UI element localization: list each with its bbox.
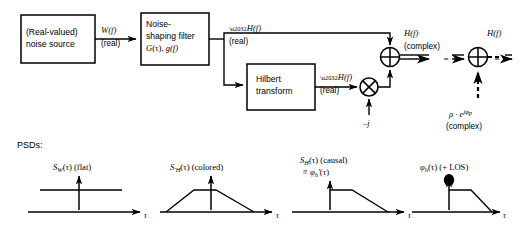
psd-3-label: SH(τ) (causal) [300,155,348,166]
node-summing-junction-2 [469,48,488,67]
plot-psd-sh-causal: SH(τ) (causal) ≡ φh′(τ) τ [292,155,411,220]
los-impulse-dot [444,174,454,186]
filter-line1: Noise- [146,19,171,29]
label-equals-1: = [443,54,449,64]
filter-line3: G(τ), g(f) [146,43,178,53]
block-hilbert-transform: Hilbert transform [247,64,315,110]
psd-2-label: S′H(τ) (colored) [170,162,223,173]
wire-multiplier-to-sum1 [378,70,390,87]
psd-4-label: φh(τ) (+ LOS) [420,162,468,173]
label-h-out: H(f) [486,28,501,38]
label-rho-term: ρ · ejφp [448,108,472,119]
psd-3-axis-label: τ [408,211,411,220]
psds-heading: PSDs: [17,140,43,150]
label-w-of-f: W(f) [101,25,116,35]
label-equals-2: = [494,54,500,64]
noise-source-line1: (Real-valued) [26,27,78,37]
label-minus-j: –j [362,118,370,128]
wire-sum1-output [400,55,429,59]
wire-final-arrow [505,55,512,59]
node-summing-junction-1 [381,48,400,67]
label-h-prime-hilbert: \u2032H(f) [320,72,352,82]
label-rho-note: (complex) [446,122,482,131]
plot-psd-phi-los: φh(τ) (+ LOS) τ [412,162,506,220]
label-h-prime-top-real: (real) [229,37,248,46]
psd-3-label-line2: ≡ φh′(τ) [303,167,329,178]
node-multiplier [360,78,378,96]
label-h-complex: H(f) [403,28,418,38]
psd-2-axis-label: τ [276,211,279,220]
label-w-real: (real) [101,39,120,48]
wire-into-sum2 [452,55,464,59]
psd-4-axis-label: τ [503,211,506,220]
psd-1-label: SW(τ) (flat) [53,162,91,173]
signal-flow-diagram: (Real-valued) noise source W(f) (real) N… [0,0,524,228]
block-noise-source: (Real-valued) noise source [21,15,95,63]
plot-psd-sh-colored: S′H(τ) (colored) τ [160,162,279,220]
hilbert-line1: Hilbert [256,74,281,84]
filter-line2: shaping filter [146,31,195,41]
plot-psd-sw-flat: SW(τ) (flat) τ [28,162,147,220]
block-noise-shaping-filter: Noise- shaping filter G(τ), g(f) [141,13,209,65]
label-h-prime-top: \u2032H(f) [229,23,261,33]
label-h-prime-hilbert-real: (real) [320,86,339,95]
label-h-complex-note: (complex) [404,42,440,51]
psd-1-axis-label: τ [144,211,147,220]
noise-source-line2: noise source [26,39,75,49]
hilbert-line2: transform [256,86,292,96]
